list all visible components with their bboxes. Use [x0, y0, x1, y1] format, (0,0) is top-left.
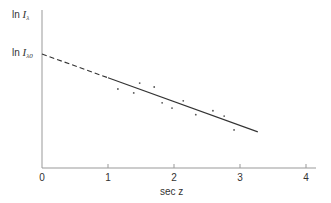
x-tick-label: 1 [105, 172, 111, 183]
x-tick-label: 0 [39, 172, 45, 183]
x-axis-ticks [108, 164, 306, 168]
intercept-label-sub: λ0 [26, 52, 33, 60]
data-point [182, 100, 184, 102]
data-point [153, 86, 155, 88]
data-point [223, 115, 225, 117]
data-point [139, 82, 141, 84]
fit-line [108, 78, 258, 132]
y-axis-label-prefix: ln [12, 9, 23, 20]
x-tick-label: 4 [303, 172, 309, 183]
axes [42, 10, 316, 168]
x-tick-label: 3 [237, 172, 243, 183]
data-point [195, 114, 197, 116]
y-axis-label: ln Iλ [12, 8, 29, 22]
data-point [133, 92, 135, 94]
extrapolation-line [42, 54, 108, 78]
intercept-label: ln Iλ0 [12, 46, 33, 60]
chart-plot-area [0, 0, 331, 203]
y-axis-label-sub: λ [26, 14, 29, 22]
data-point [117, 88, 119, 90]
data-point [233, 129, 235, 131]
data-point [212, 110, 214, 112]
x-axis-label: sec z [160, 186, 183, 197]
data-point [161, 102, 163, 104]
x-axis-label-var: z [178, 186, 183, 197]
intercept-label-prefix: ln [12, 47, 23, 58]
fit-lines [42, 54, 258, 132]
x-tick-label: 2 [171, 172, 177, 183]
x-axis-label-prefix: sec [160, 186, 178, 197]
data-points [117, 82, 235, 131]
data-point [171, 107, 173, 109]
